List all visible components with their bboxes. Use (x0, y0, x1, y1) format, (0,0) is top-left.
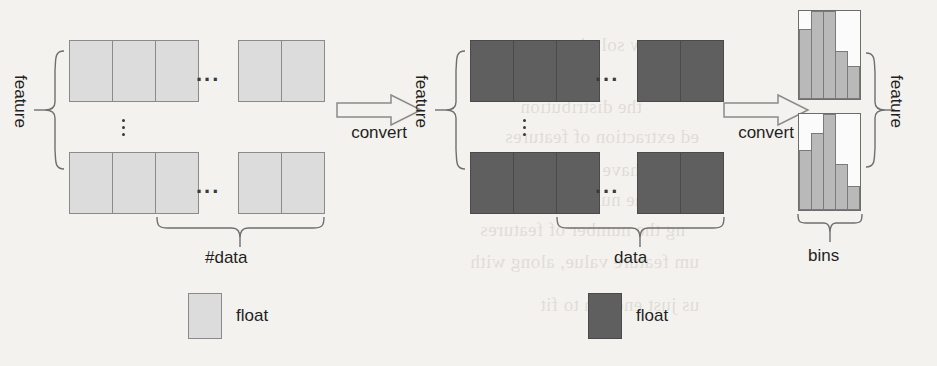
feature-label-stage2: feature (411, 75, 431, 128)
matrix-cell (637, 40, 681, 102)
matrix-cell (281, 40, 325, 102)
histogram-bar (847, 186, 860, 210)
convert-arrow-1: convert (335, 93, 423, 131)
histogram-feature-row-2 (798, 113, 861, 211)
matrix-cell (470, 152, 514, 214)
legend-swatch-light (188, 293, 222, 339)
float-block-light-bottom-left (69, 152, 199, 214)
float-block-dark-top-left (470, 40, 600, 102)
matrix-cell (513, 152, 557, 214)
feature-label-stage1: feature (10, 75, 30, 128)
histogram-bar (847, 66, 860, 99)
matrix-cell (69, 152, 113, 214)
matrix-cell (556, 40, 600, 102)
matrix-cell (637, 152, 681, 214)
data-bracket-bottom-stage2 (556, 216, 726, 242)
feature-bracket-left-stage2 (443, 50, 469, 170)
row-ellipsis-bottom-stage2: ... (595, 175, 619, 197)
float-block-dark-top-right (637, 40, 724, 102)
matrix-cell (238, 152, 282, 214)
column-ellipsis-stage1 (122, 119, 125, 136)
data-label-stage2: data (614, 248, 647, 268)
matrix-cell (238, 40, 282, 102)
column-ellipsis-stage2 (523, 119, 526, 136)
matrix-cell (556, 152, 600, 214)
legend-item-float-dark: float (588, 293, 668, 339)
matrix-cell (513, 40, 557, 102)
float-block-light-top-left (69, 40, 199, 102)
matrix-cell (69, 40, 113, 102)
legend-swatch-dark (588, 293, 622, 339)
bins-bracket-bottom (797, 213, 863, 237)
histogram-feature-row-1 (798, 10, 861, 100)
float-block-light-top-right (238, 40, 325, 102)
legend-label-dark: float (636, 306, 668, 326)
matrix-cell (155, 152, 199, 214)
matrix-cell (281, 152, 325, 214)
matrix-cell (112, 152, 156, 214)
legend-item-float-light: float (188, 293, 268, 339)
matrix-cell (680, 40, 724, 102)
float-block-dark-bottom-right (637, 152, 724, 214)
feature-label-stage3: feature (886, 75, 906, 128)
data-bracket-bottom-stage1 (156, 216, 326, 242)
float-block-light-bottom-right (238, 152, 325, 214)
matrix-cell (112, 40, 156, 102)
matrix-cell (470, 40, 514, 102)
conversion-diagram: feature ... ... #data convert (0, 0, 937, 366)
convert-arrow-2-label: convert (738, 123, 794, 143)
convert-arrow-1-label: convert (351, 123, 407, 143)
matrix-cell (155, 40, 199, 102)
legend-label-light: float (236, 306, 268, 326)
row-ellipsis-bottom-stage1: ... (196, 175, 220, 197)
feature-bracket-left-stage1 (42, 50, 68, 170)
bins-label: bins (808, 246, 839, 266)
row-ellipsis-top-stage1: ... (196, 63, 220, 85)
matrix-cell (680, 152, 724, 214)
float-block-dark-bottom-left (470, 152, 600, 214)
convert-arrow-2: convert (722, 93, 810, 131)
data-count-label-stage1: #data (205, 248, 248, 268)
row-ellipsis-top-stage2: ... (595, 63, 619, 85)
